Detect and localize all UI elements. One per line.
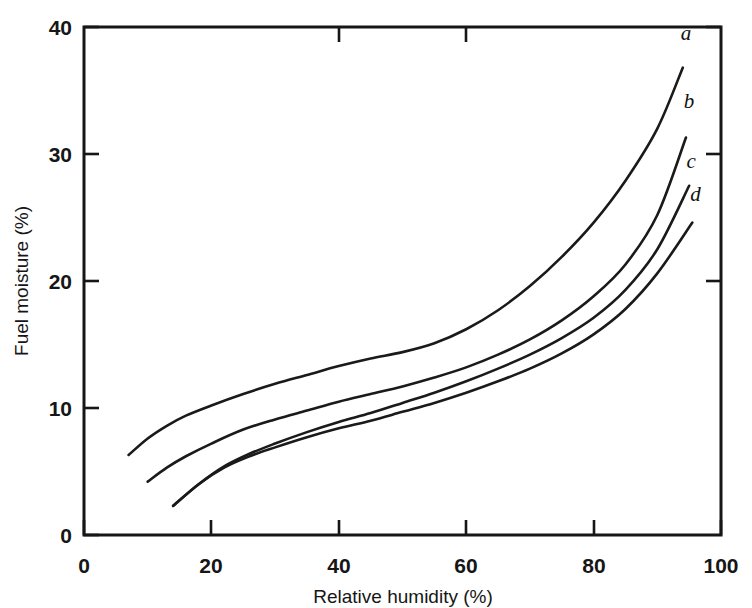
chart-background	[0, 0, 752, 608]
y-axis-title: Fuel moisture (%)	[11, 206, 32, 356]
chart-figure: 40 30 20 10 0 0 20 40 60 80 100 Relative…	[0, 0, 752, 608]
y-tick-label-40: 40	[49, 16, 72, 39]
x-tick-label-40: 40	[327, 554, 350, 577]
x-tick-label-0: 0	[78, 554, 90, 577]
x-tick-label-100: 100	[703, 554, 738, 577]
x-tick-label-60: 60	[454, 554, 477, 577]
x-tick-label-80: 80	[582, 554, 605, 577]
x-tick-label-20: 20	[199, 554, 222, 577]
series-label-c: c	[686, 149, 696, 173]
y-tick-label-0: 0	[60, 524, 72, 547]
x-axis-title: Relative humidity (%)	[313, 586, 493, 607]
series-label-a: a	[681, 21, 692, 45]
y-tick-label-30: 30	[49, 143, 72, 166]
series-label-b: b	[684, 89, 695, 113]
y-tick-label-20: 20	[49, 270, 72, 293]
series-label-d: d	[690, 182, 701, 206]
y-tick-label-10: 10	[49, 397, 72, 420]
fuel-moisture-vs-relative-humidity-chart: 40 30 20 10 0 0 20 40 60 80 100 Relative…	[0, 0, 752, 608]
